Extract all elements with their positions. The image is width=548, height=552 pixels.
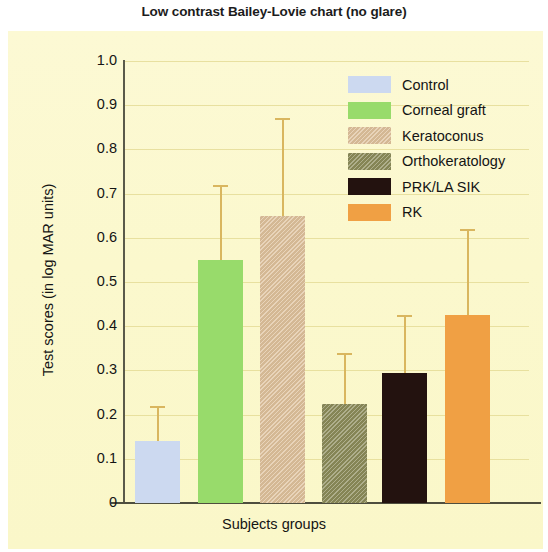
- legend-label: Orthokeratology: [402, 153, 505, 169]
- chart-legend: ControlCorneal graftKeratoconusOrthokera…: [348, 72, 538, 225]
- bar-prk-la-sik: [382, 373, 427, 503]
- errorbar-stem: [404, 315, 406, 372]
- errorbar-cap: [460, 229, 475, 231]
- legend-swatch: [348, 76, 391, 93]
- legend-item-keratoconus: Keratoconus: [348, 123, 538, 149]
- bar-texture: [322, 404, 367, 503]
- legend-item-prk-la-sik: PRK/LA SIK: [348, 174, 538, 200]
- errorbar-cap: [213, 185, 228, 187]
- legend-label: Corneal graft: [402, 102, 486, 118]
- errorbar-stem: [220, 185, 222, 260]
- bar-orthokeratology: [322, 404, 367, 503]
- legend-swatch: [348, 178, 391, 195]
- errorbar-cap: [337, 353, 352, 355]
- errorbar-stem: [282, 118, 284, 215]
- errorbar-stem: [344, 353, 346, 404]
- legend-swatch: [348, 204, 391, 221]
- errorbar-cap: [275, 118, 290, 120]
- bar-texture: [260, 216, 305, 503]
- legend-swatch: [348, 153, 391, 170]
- legend-item-rk: RK: [348, 200, 538, 226]
- legend-swatch-texture: [348, 127, 391, 144]
- legend-label: PRK/LA SIK: [402, 179, 480, 195]
- errorbar-stem: [157, 406, 159, 441]
- chart-figure: Low contrast Bailey-Lovie chart (no glar…: [0, 0, 548, 552]
- legend-swatch: [348, 127, 391, 144]
- legend-swatch-texture: [348, 153, 391, 170]
- legend-label: Keratoconus: [402, 128, 483, 144]
- x-axis-title: Subjects groups: [0, 516, 548, 532]
- errorbar-stem: [467, 229, 469, 315]
- bar-control: [135, 441, 180, 503]
- legend-label: RK: [402, 204, 422, 220]
- bar-rk: [445, 315, 490, 503]
- legend-item-corneal-graft: Corneal graft: [348, 98, 538, 124]
- legend-label: Control: [402, 77, 449, 93]
- errorbar-cap: [397, 315, 412, 317]
- legend-item-control: Control: [348, 72, 538, 98]
- bar-keratoconus: [260, 216, 305, 503]
- errorbar-cap: [150, 406, 165, 408]
- legend-swatch: [348, 102, 391, 119]
- bar-corneal-graft: [198, 260, 243, 503]
- legend-item-orthokeratology: Orthokeratology: [348, 149, 538, 175]
